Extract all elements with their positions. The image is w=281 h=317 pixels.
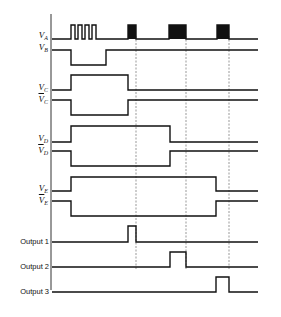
label-ve: VE — [30, 184, 48, 194]
waveform-vc-bar — [52, 100, 258, 115]
waveform-vd-bar — [52, 151, 258, 166]
label-vb: VB — [30, 43, 48, 53]
label-vc: VC — [30, 83, 48, 93]
reference-lines — [136, 36, 229, 270]
waveform-output-3 — [52, 277, 258, 292]
label-ve-bar: VE — [30, 196, 48, 206]
waveform-vd — [52, 126, 258, 142]
waveform-ve-bar — [52, 201, 258, 216]
waveform-output-1 — [52, 226, 258, 242]
waveform-vb — [52, 50, 258, 65]
waveform-output-2 — [52, 252, 258, 267]
label-vd-bar: VD — [30, 146, 48, 156]
waveform-vc — [52, 75, 258, 90]
label-output-1: Output 1 — [0, 238, 49, 246]
waveform-ve — [52, 177, 258, 191]
va-filled-pulses — [128, 25, 229, 39]
label-vc-bar: VC — [30, 95, 48, 105]
label-output-3: Output 3 — [0, 288, 49, 296]
label-vd: VD — [30, 134, 48, 144]
label-output-2: Output 2 — [0, 263, 49, 271]
label-va: VA — [30, 31, 48, 41]
